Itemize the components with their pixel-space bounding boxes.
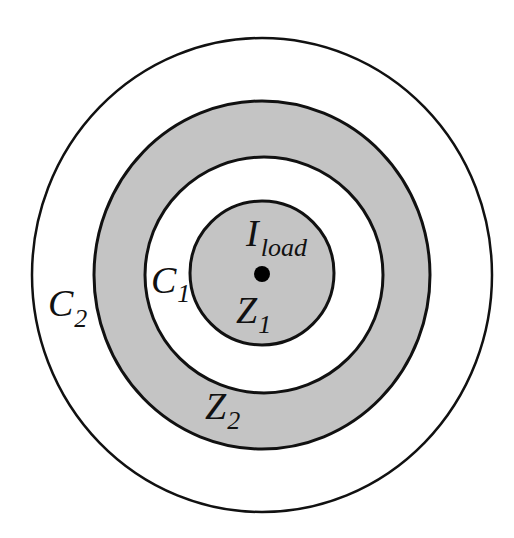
label-c2-main: C	[48, 282, 74, 324]
label-z2-main: Z	[205, 385, 227, 427]
label-i-load-sub: load	[261, 233, 308, 262]
label-z2-sub: 2	[227, 406, 240, 435]
label-c2-sub: 2	[74, 304, 87, 333]
concentric-load-diagram: Iload Z1 C1 C2 Z2	[0, 0, 514, 538]
label-z1-sub: 1	[258, 310, 271, 339]
load-point-dot	[254, 266, 270, 282]
label-c1-main: C	[151, 259, 177, 301]
label-c1-sub: 1	[177, 279, 190, 308]
label-i-load-main: I	[245, 212, 261, 254]
label-z1-main: Z	[236, 289, 258, 331]
